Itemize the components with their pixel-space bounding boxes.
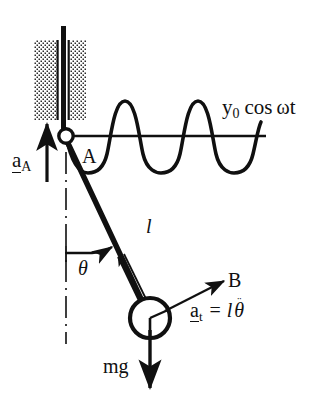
wave-y-subscript: 0	[233, 106, 240, 121]
double-dot-accent: ¨	[237, 296, 242, 308]
angle-label: θ	[78, 258, 88, 278]
theta-double-dot: ¨θ	[234, 300, 244, 320]
support-acceleration-symbol: a	[12, 151, 21, 173]
tangential-acceleration-symbol: a	[190, 301, 199, 322]
tangential-acceleration-subscript: t	[199, 309, 203, 324]
pivot-point-label: A	[82, 146, 96, 166]
guide-edge-right	[68, 40, 70, 120]
wall-hatch-left	[34, 40, 57, 120]
support-rod-group	[61, 26, 66, 136]
wave-cos-symbol: cos	[245, 95, 273, 119]
wave-equation-label: y0cosωt	[222, 97, 296, 121]
pivot-circle	[59, 129, 73, 143]
guide-edge-left	[57, 40, 59, 120]
wave-y-symbol: y	[222, 95, 233, 119]
bob-point-label: B	[228, 270, 241, 290]
angle-arc-group	[66, 246, 112, 262]
vector-underline-wrapper: a	[12, 150, 21, 173]
pendulum-group	[66, 139, 170, 340]
weight-label: mg	[103, 356, 129, 376]
angle-arc-arrow	[66, 247, 112, 253]
support-acceleration-subscript: A	[21, 159, 31, 174]
tangential-acceleration-label: at=l¨θ	[190, 300, 244, 323]
support-acceleration-label: aA	[12, 150, 31, 174]
tangential-length-symbol: l	[227, 299, 233, 321]
equals-sign: =	[210, 299, 221, 321]
vector-underline-wrapper-at: a	[190, 300, 199, 322]
wall-support-group	[34, 40, 86, 120]
wave-omega-symbol: ω	[277, 96, 290, 118]
wall-hatch-right	[70, 40, 86, 120]
rod-length-label: l	[146, 216, 152, 236]
wave-t-symbol: t	[290, 95, 296, 119]
pendulum-rod	[66, 139, 150, 318]
diagram-canvas	[0, 0, 328, 399]
physics-diagram-figure: y0cosωt aA A θ l B at=l¨θ mg	[0, 0, 328, 399]
vertical-rod	[61, 26, 66, 136]
